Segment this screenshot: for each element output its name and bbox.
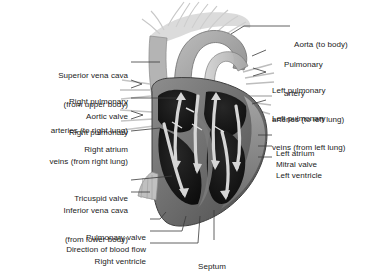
label-right-atrium-line1: Right atrium [8,145,128,155]
label-right-ventricle: Right ventricle [30,238,146,275]
label-right-ventricle-line1: Right ventricle [30,257,146,267]
label-left-pulmonary-veins-line1: Left pulmonary [272,114,372,124]
label-septum: Septum [198,243,278,275]
label-left-ventricle: Left ventricle [276,152,372,200]
label-left-ventricle-line1: Left ventricle [276,171,372,181]
leader-right-pulmonary-veins [131,111,143,119]
leader-pulmonary-artery [252,50,266,56]
label-septum-line1: Septum [198,262,278,272]
label-right-atrium: Right atrium [8,126,128,174]
leader-aorta [231,26,290,34]
